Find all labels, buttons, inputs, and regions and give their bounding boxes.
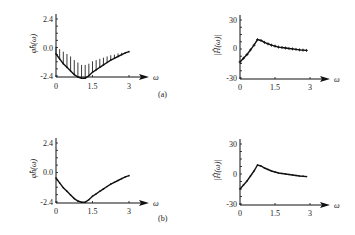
data-marker <box>117 56 119 58</box>
x-tick-label: 0 <box>54 207 58 216</box>
data-marker <box>81 201 83 203</box>
data-marker <box>114 57 116 59</box>
data-marker <box>288 174 290 176</box>
data-line <box>240 40 307 62</box>
data-marker <box>73 198 75 200</box>
data-marker <box>278 172 280 174</box>
x-tick-label: 1.5 <box>88 82 98 91</box>
data-marker <box>291 47 294 50</box>
data-marker <box>73 74 75 76</box>
data-marker <box>66 67 68 69</box>
plot-b-magnitude: ω300-3001.53|Ĥ(ω)| <box>212 139 340 218</box>
data-marker <box>59 58 61 60</box>
data-marker <box>106 186 108 188</box>
data-marker <box>70 70 72 72</box>
x-axis-label: ω <box>153 73 159 82</box>
data-marker <box>295 48 298 51</box>
data-marker <box>125 176 127 178</box>
x-axis-label: ω <box>153 199 159 208</box>
x-tick-label: 3 <box>127 82 131 91</box>
y-tick-label: 0.0 <box>43 44 53 53</box>
y-tick-label: -30 <box>226 74 237 83</box>
x-tick-label: 1.5 <box>270 83 280 92</box>
data-marker <box>243 184 245 186</box>
data-marker <box>92 71 94 73</box>
data-marker <box>292 174 294 176</box>
data-marker <box>99 67 101 69</box>
y-tick-label: 30 <box>229 16 237 25</box>
data-marker <box>281 173 283 175</box>
data-marker <box>260 165 262 167</box>
data-marker <box>70 194 72 196</box>
plot-a-magnitude: ω300-3001.53|Ĥ(ω)| <box>212 15 340 92</box>
x-tick-label: 0 <box>54 82 58 91</box>
data-marker <box>55 53 57 55</box>
data-marker <box>77 200 79 202</box>
x-axis-label: ω <box>334 201 340 210</box>
data-marker <box>121 178 123 180</box>
data-marker <box>295 175 297 177</box>
x-tick-label: 3 <box>308 209 312 218</box>
data-marker <box>125 52 127 54</box>
data-marker <box>103 188 105 190</box>
x-tick-label: 0 <box>238 83 242 92</box>
data-marker <box>305 49 308 52</box>
data-marker <box>95 193 97 195</box>
data-marker <box>257 164 259 166</box>
y-tick-label: -2.4 <box>40 72 53 81</box>
x-tick-label: 3 <box>127 207 131 216</box>
data-marker <box>88 75 90 77</box>
data-line <box>240 165 307 189</box>
plot-a-phase: ω2.40.0-2.401.53φ̂h(ω) <box>29 14 159 91</box>
y-tick-label: -30 <box>226 200 237 209</box>
data-marker <box>95 69 97 71</box>
figure: ω2.40.0-2.401.53φ̂h(ω) ω300-3001.53|Ĥ(ω)… <box>0 0 355 235</box>
data-marker <box>277 46 280 49</box>
data-marker <box>302 176 304 178</box>
data-marker <box>63 63 65 65</box>
x-tick-label: 0 <box>238 209 242 218</box>
data-marker <box>253 170 255 172</box>
data-marker <box>77 76 79 78</box>
data-marker <box>59 182 61 184</box>
y-axis-label: |Ĥ(ω)| <box>212 159 222 180</box>
x-tick-label: 1.5 <box>88 207 98 216</box>
data-marker <box>274 45 277 48</box>
data-marker <box>250 175 252 177</box>
data-marker <box>88 199 90 201</box>
data-marker <box>81 77 83 79</box>
y-axis-label: φ̂h(ω) <box>29 33 38 53</box>
data-marker <box>114 181 116 183</box>
y-tick-label: -2.4 <box>40 198 53 207</box>
data-marker <box>55 177 57 179</box>
data-marker <box>99 191 101 193</box>
data-marker <box>128 175 130 177</box>
data-marker <box>298 48 301 51</box>
data-marker <box>285 173 287 175</box>
data-marker <box>128 51 130 53</box>
data-marker <box>84 77 86 79</box>
y-axis-label: φ̂h(ω) <box>29 158 38 178</box>
data-marker <box>239 188 241 190</box>
data-marker <box>106 62 108 64</box>
y-tick-label: 0.0 <box>43 168 53 177</box>
data-marker <box>284 47 287 50</box>
y-tick-label: 30 <box>229 140 237 149</box>
data-marker <box>84 201 86 203</box>
data-marker <box>66 191 68 193</box>
data-marker <box>267 169 269 171</box>
x-axis-label: ω <box>334 75 340 84</box>
x-tick-label: 3 <box>308 83 312 92</box>
y-tick-label: 2.4 <box>43 139 53 148</box>
y-tick-label: 2.4 <box>43 15 53 24</box>
panel-label-a: (a) <box>158 90 167 99</box>
data-marker <box>63 187 65 189</box>
data-marker <box>121 54 123 56</box>
data-marker <box>110 183 112 185</box>
data-marker <box>246 180 248 182</box>
data-marker <box>110 59 112 61</box>
data-marker <box>281 46 284 49</box>
data-marker <box>288 47 291 50</box>
y-axis-label: |Ĥ(ω)| <box>212 34 222 55</box>
data-marker <box>271 170 273 172</box>
